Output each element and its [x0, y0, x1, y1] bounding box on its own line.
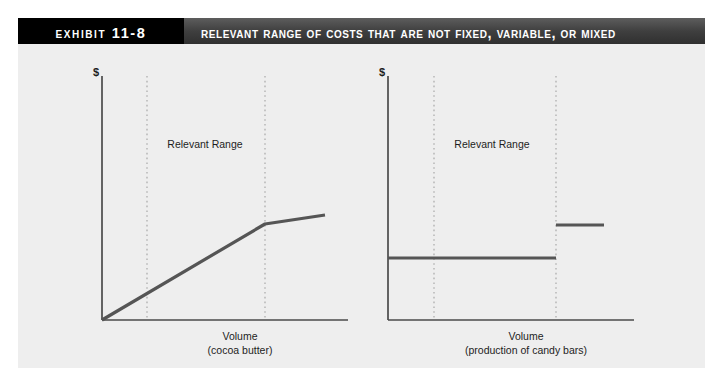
right-relevant-range-annotation: Relevant Range: [454, 138, 529, 150]
exhibit-title-cell: Relevant Range of Costs That Are Not Fix…: [184, 18, 705, 47]
charts-canvas: [18, 44, 705, 368]
left-x-axis-subtitle: (cocoa butter): [208, 343, 273, 357]
left-x-axis-title: Volume: [222, 329, 257, 343]
exhibit-header-banner: Exhibit 11-8 Relevant Range of Costs Tha…: [18, 18, 705, 47]
figure-panel: $ Relevant Range Volume (cocoa butter) $…: [18, 44, 705, 368]
left-dollar-axis-label: $: [93, 66, 99, 78]
right-chart: [388, 76, 634, 320]
left-chart: [102, 76, 348, 320]
exhibit-number-label: Exhibit 11-8: [56, 25, 147, 41]
right-x-axis-subtitle: (production of candy bars): [465, 343, 587, 357]
left-relevant-range-annotation: Relevant Range: [167, 138, 242, 150]
exhibit-figure: Exhibit 11-8 Relevant Range of Costs Tha…: [0, 0, 723, 382]
left-cost-line: [102, 215, 325, 320]
exhibit-number-cell: Exhibit 11-8: [18, 18, 184, 47]
right-dollar-axis-label: $: [379, 66, 385, 78]
exhibit-title-label: Relevant Range of Costs That Are Not Fix…: [201, 25, 616, 41]
right-x-axis-title: Volume: [508, 329, 543, 343]
